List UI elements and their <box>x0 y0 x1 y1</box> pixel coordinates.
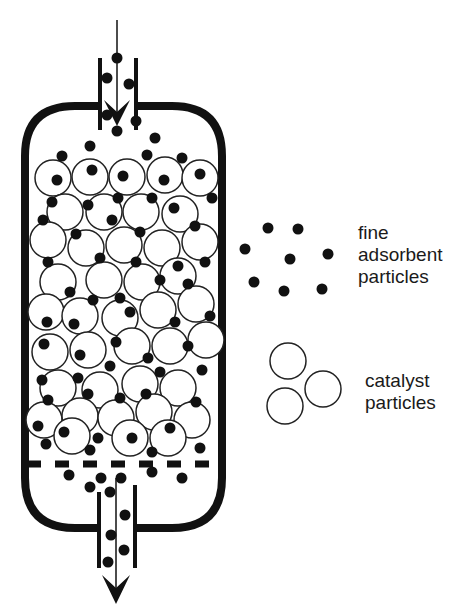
outlet-pipe <box>99 478 135 604</box>
legend-catalyst-line-2: particles <box>365 392 436 414</box>
legend-catalyst-label: catalyst particles <box>365 370 436 414</box>
legend-fine-line-1: fine <box>358 222 443 244</box>
legend-fine-line-3: particles <box>358 266 443 288</box>
legend-fine-particles-icon <box>240 223 334 297</box>
reactor-diagram <box>0 0 464 616</box>
legend-catalyst-line-1: catalyst <box>365 370 436 392</box>
legend-fine-line-2: adsorbent <box>358 244 443 266</box>
legend-fine-label: fine adsorbent particles <box>358 222 443 288</box>
legend-catalyst-particles-icon <box>267 343 341 424</box>
